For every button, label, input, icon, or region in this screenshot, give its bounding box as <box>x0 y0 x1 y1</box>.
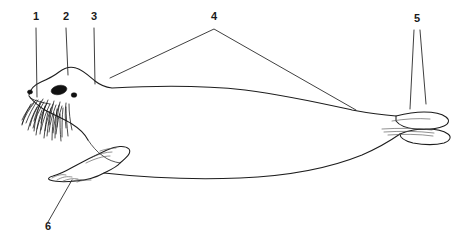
seal-anatomy-figure: 1 2 3 4 5 6 <box>0 0 467 244</box>
callout-leaders <box>36 28 426 222</box>
leader-line-6 <box>48 180 72 222</box>
callout-label-3: 3 <box>91 10 97 22</box>
fore-flipper-outline <box>49 146 130 181</box>
leader-line-5a <box>410 30 414 109</box>
callout-label-5: 5 <box>414 12 420 24</box>
callout-label-4: 4 <box>211 10 218 22</box>
eye <box>50 84 68 96</box>
leader-line-4 <box>110 29 356 110</box>
leader-line-5b <box>420 30 426 104</box>
hind-flipper-web-2 <box>384 131 434 133</box>
seal-drawing <box>22 67 450 182</box>
nostril <box>71 93 77 98</box>
fore-flipper-claw-2 <box>57 177 72 180</box>
callout-labels: 1 2 3 4 5 6 <box>33 10 420 232</box>
nose-tip <box>27 90 32 94</box>
callout-label-1: 1 <box>33 10 39 22</box>
dorsal-outline <box>29 67 396 116</box>
seal-diagram-canvas: 1 2 3 4 5 6 <box>0 0 467 244</box>
ventral-outline <box>104 134 400 179</box>
callout-label-2: 2 <box>63 10 69 22</box>
callout-label-6: 6 <box>45 220 51 232</box>
hind-flipper-web-3 <box>388 134 433 136</box>
hind-flipper-crease <box>392 119 430 121</box>
hind-flipper-upper <box>396 112 448 129</box>
leader-line-3 <box>94 28 95 84</box>
fore-flipper-crease-2 <box>86 156 110 163</box>
leader-line-1 <box>36 28 37 97</box>
